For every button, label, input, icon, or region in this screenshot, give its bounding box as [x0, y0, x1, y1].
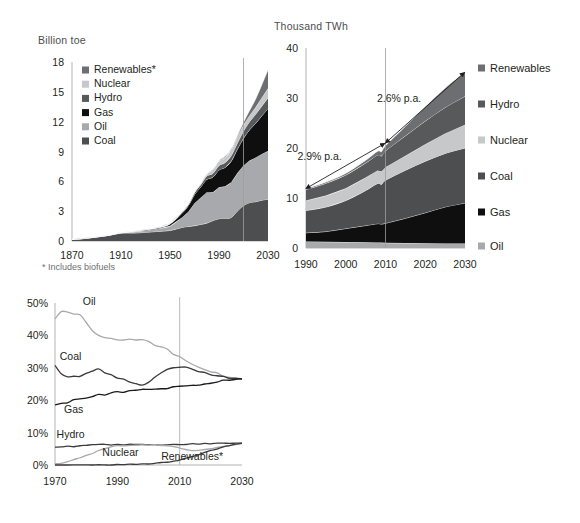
- chart2-legend-swatch-nuclear: [478, 137, 485, 144]
- chart3-xtick: 2010: [168, 475, 192, 487]
- chart2-legend-label: Renewables: [490, 62, 551, 74]
- chart1-legend-swatch-oil: [82, 123, 89, 130]
- chart2-legend-label: Coal: [490, 170, 513, 182]
- chart3-xtick: 2030: [230, 475, 254, 487]
- chart1-legend-swatch-renewables: [82, 67, 89, 74]
- chart1-ytick: 15: [52, 86, 64, 98]
- chart1-legend-label: Renewables*: [94, 63, 156, 75]
- chart3-inline-label-renewables: Renewables*: [161, 450, 223, 462]
- chart2-xtick: 2020: [414, 258, 438, 270]
- chart2-legend-label: Hydro: [490, 98, 519, 110]
- chart3-ytick: 40%: [27, 329, 48, 341]
- chart3-ytick: 30%: [27, 362, 48, 374]
- chart2-plot: 010203040199020002010202020302.9% p.a.2.…: [262, 0, 580, 285]
- chart2-legend-swatch-gas: [478, 209, 485, 216]
- chart2-ytick: 0: [292, 242, 298, 254]
- chart2-legend-label: Oil: [490, 240, 503, 252]
- chart3-inline-label-nuclear: Nuclear: [102, 446, 139, 458]
- chart1-legend-swatch-gas: [82, 109, 89, 116]
- chart2-legend-swatch-oil: [478, 243, 485, 250]
- chart1-axis-title: Billion toe: [38, 34, 86, 46]
- chart-power-generation: Thousand TWh 010203040199020002010202020…: [262, 0, 580, 285]
- chart2-axis-title: Thousand TWh: [274, 20, 348, 32]
- chart2-xtick: 2030: [453, 258, 477, 270]
- chart3-ytick: 20%: [27, 394, 48, 406]
- chart1-legend-swatch-nuclear: [82, 81, 89, 88]
- chart-fuel-shares: 0%10%20%30%40%50%1970199020102030OilCoal…: [0, 285, 290, 523]
- chart1-ytick: 6: [58, 175, 64, 187]
- chart1-legend-label: Hydro: [94, 91, 122, 103]
- chart2-xtick: 1990: [294, 258, 318, 270]
- chart2-growth-label-0: 2.9% p.a.: [297, 150, 341, 162]
- chart1-legend-swatch-hydro: [82, 95, 89, 102]
- chart1-ytick: 18: [52, 56, 64, 68]
- chart1-footnote: * Includes biofuels: [42, 262, 115, 272]
- chart1-ytick: 3: [58, 205, 64, 217]
- chart1-legend-label: Oil: [94, 120, 107, 132]
- chart3-xtick: 1990: [106, 475, 130, 487]
- chart3-ytick: 10%: [27, 427, 48, 439]
- chart2-legend-swatch-coal: [478, 173, 485, 180]
- chart3-inline-label-gas: Gas: [64, 403, 83, 415]
- chart2-ytick: 30: [286, 92, 298, 104]
- chart1-ytick: 0: [58, 235, 64, 247]
- chart2-growth-label-1: 2.6% p.a.: [377, 92, 421, 104]
- chart2-xtick: 2010: [374, 258, 398, 270]
- chart3-inline-label-hydro: Hydro: [57, 428, 85, 440]
- chart2-xtick: 2000: [334, 258, 358, 270]
- chart3-ytick: 50%: [27, 297, 48, 309]
- chart1-xtick: 1950: [158, 249, 182, 261]
- chart2-ytick: 20: [286, 142, 298, 154]
- chart2-ytick: 40: [286, 42, 298, 54]
- chart1-legend-label: Gas: [94, 106, 113, 118]
- chart1-ytick: 12: [52, 116, 64, 128]
- chart3-line-oil: [55, 311, 242, 379]
- chart3-inline-label-oil: Oil: [83, 295, 96, 307]
- chart1-xtick: 1990: [207, 249, 231, 261]
- chart3-plot: 0%10%20%30%40%50%1970199020102030OilCoal…: [0, 285, 290, 523]
- chart1-ytick: 9: [58, 146, 64, 158]
- chart3-xtick: 1970: [43, 475, 67, 487]
- chart2-legend-label: Nuclear: [490, 134, 528, 146]
- chart2-ytick: 10: [286, 192, 298, 204]
- chart1-legend-label: Nuclear: [94, 77, 131, 89]
- chart1-legend-swatch-coal: [82, 138, 89, 145]
- chart3-inline-label-coal: Coal: [60, 350, 82, 362]
- chart-primary-energy-consumption: Billion toe 0369121518187019101950199020…: [0, 0, 280, 280]
- chart2-legend-swatch-hydro: [478, 101, 485, 108]
- chart3-ytick: 0%: [33, 459, 48, 471]
- chart2-legend-label: Gas: [490, 206, 511, 218]
- chart1-xtick: 1910: [109, 249, 133, 261]
- chart2-legend-swatch-renewables: [478, 65, 485, 72]
- chart1-legend-label: Coal: [94, 134, 116, 146]
- chart1-xtick: 1870: [60, 249, 84, 261]
